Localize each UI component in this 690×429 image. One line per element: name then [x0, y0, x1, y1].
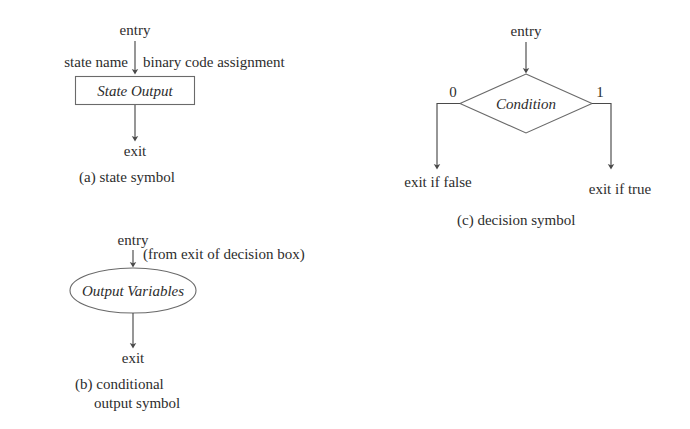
panel-c-caption: (c) decision symbol: [457, 211, 575, 230]
panel-b-caption-line2: output symbol: [94, 394, 180, 413]
state-symbol-text: State Output: [97, 83, 172, 100]
panel-b-caption-line1: (b) conditional: [75, 375, 164, 394]
decision-false-branch-arrow: [437, 104, 460, 169]
panel-a-state-name-annotation: state name: [64, 54, 128, 71]
panel-b-entry-annotation: (from exit of decision box): [143, 246, 305, 263]
panel-a-caption: (a) state symbol: [79, 168, 175, 187]
decision-condition-text: Condition: [496, 96, 556, 113]
conditional-output-text: Output Variables: [82, 283, 184, 300]
panel-a-exit-label: exit: [124, 143, 147, 160]
figure-canvas: entry state name binary code assignment …: [0, 0, 690, 429]
decision-exit-true-label: exit if true: [589, 181, 651, 198]
panel-a-entry-label: entry: [120, 22, 151, 39]
decision-exit-false-label: exit if false: [404, 174, 471, 191]
panel-c-entry-label: entry: [511, 23, 542, 40]
panel-b-exit-label: exit: [122, 350, 145, 367]
decision-false-value-label: 0: [449, 84, 457, 101]
decision-true-branch-arrow: [592, 104, 611, 169]
panel-a-binary-code-annotation: binary code assignment: [143, 54, 285, 71]
decision-true-value-label: 1: [596, 84, 604, 101]
